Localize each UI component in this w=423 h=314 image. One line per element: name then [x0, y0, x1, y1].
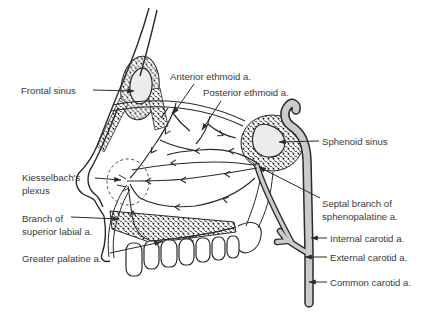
- anastomosis-branch: [132, 162, 252, 170]
- label-text: Common carotid a.: [330, 277, 411, 288]
- kiesselbach-dashed-circle: [107, 159, 149, 205]
- label-text: Internal carotid a.: [330, 233, 404, 244]
- plexus-squiggles: [117, 175, 129, 191]
- leader-line: [95, 178, 121, 180]
- figure-canvas: Frontal sinus Anterior ethmoid a. Poster…: [0, 0, 423, 314]
- label-text: Anterior ethmoid a.: [170, 71, 251, 82]
- maxillary-tuberosity: [238, 223, 261, 253]
- tooth: [227, 236, 239, 258]
- label-text: plexus: [22, 185, 50, 196]
- label-text: Frontal sinus: [21, 85, 76, 96]
- label-text: External carotid a.: [330, 252, 407, 263]
- label-text: Posterior ethmoid a.: [203, 87, 289, 98]
- nasal-septum-diagram: Frontal sinus Anterior ethmoid a. Poster…: [0, 0, 423, 314]
- label-common-carotid: Common carotid a.: [309, 277, 411, 288]
- label-text: Kiesselbach's: [22, 172, 81, 183]
- sphenopalatine-middle-branch: [127, 168, 257, 181]
- label-text: Greater palatine a.: [22, 253, 101, 264]
- label-text: superior labial a.: [22, 226, 92, 237]
- tooth: [196, 238, 210, 262]
- label-internal-carotid: Internal carotid a.: [311, 233, 404, 244]
- label-external-carotid: External carotid a.: [305, 252, 407, 263]
- label-kiesselbachs-plexus: Kiesselbach's plexus: [22, 172, 121, 196]
- label-text: Sphenoid sinus: [322, 136, 388, 147]
- label-text: sphenopalatine a.: [322, 211, 398, 222]
- label-text: Branch of: [22, 213, 63, 224]
- label-text: Septal branch of: [322, 198, 392, 209]
- teeth: [126, 236, 239, 276]
- leader-line: [202, 101, 221, 130]
- tooth: [212, 237, 225, 260]
- tooth: [161, 240, 177, 267]
- tooth: [179, 239, 194, 265]
